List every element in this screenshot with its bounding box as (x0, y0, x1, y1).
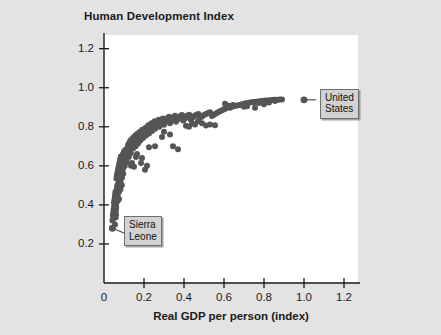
annotation-united-states-line1: United (325, 92, 354, 104)
x-axis-tick-label: 0.2 (129, 291, 159, 303)
x-axis-title: Real GDP per person (index) (104, 310, 358, 322)
y-axis-tick-label: 0.6 (60, 159, 94, 171)
y-axis-tick-label: 0.4 (60, 198, 94, 210)
x-axis-tick-label: 1.0 (289, 291, 319, 303)
annotation-sierra-leone-line2: Leone (129, 231, 157, 243)
annotation-united-states: United States (320, 89, 359, 119)
annotation-united-states-line2: States (325, 103, 354, 115)
y-axis-tick-label: 1.0 (60, 81, 94, 93)
x-axis-tick-label: 0.8 (249, 291, 279, 303)
y-axis-tick-label: 0.2 (60, 237, 94, 249)
y-axis-tick-label: 1.2 (60, 42, 94, 54)
x-axis-tick-label: 0.6 (209, 291, 239, 303)
chart-figure: Human Development Index 0.20.40.60.81.01… (0, 0, 441, 335)
annotation-sierra-leone: Sierra Leone (124, 216, 162, 246)
chart-title: Human Development Index (84, 10, 234, 22)
x-axis-tick-label: 0 (89, 291, 119, 303)
x-axis-tick-label: 0.4 (169, 291, 199, 303)
y-axis-tick-label: 0.8 (60, 120, 94, 132)
x-axis-tick-label: 1.2 (329, 291, 359, 303)
annotation-sierra-leone-line1: Sierra (129, 219, 157, 231)
